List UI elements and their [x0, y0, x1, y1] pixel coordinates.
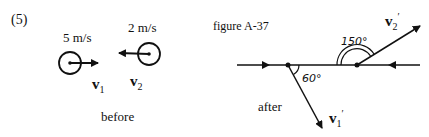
- problem-number: (5): [11, 13, 27, 27]
- before-caption: before: [101, 110, 134, 123]
- figure-label: figure A-37: [213, 20, 269, 32]
- angle-150: 150°: [341, 36, 368, 47]
- ball-2: [119, 43, 160, 65]
- v1-prime-label: v1′: [329, 109, 344, 129]
- angle-60: 60°: [302, 73, 322, 84]
- ball-1-speed: 5 m/s: [63, 31, 92, 44]
- v2-prime-label: v2′: [385, 12, 400, 32]
- arrow-right-icon: [262, 61, 270, 69]
- arrow-left-icon: [388, 61, 396, 69]
- v1-label: v1: [92, 77, 105, 95]
- ball-2-speed: 2 m/s: [128, 21, 157, 34]
- ball-1: [59, 52, 98, 74]
- after-caption: after: [258, 100, 282, 113]
- v2-label: v2: [130, 74, 143, 92]
- collision-line: [237, 61, 420, 69]
